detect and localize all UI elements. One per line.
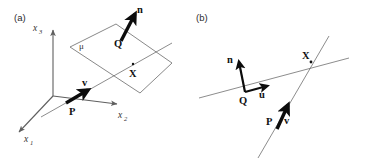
vector-n-a	[121, 14, 135, 41]
panel-b-group: (b) n u Q P v X	[196, 12, 349, 158]
vector-diagram: (a) x 3 x 2 x 1 μ	[0, 0, 367, 162]
ray-line-a	[41, 43, 172, 117]
panel-a-group: (a) x 3 x 2 x 1 μ	[14, 4, 172, 146]
vector-v-a	[66, 90, 88, 103]
point-P-label-b: P	[266, 116, 273, 127]
vector-n-label-b: n	[227, 54, 233, 65]
line-through-P	[258, 36, 329, 158]
vector-u-label-b: u	[259, 89, 265, 100]
point-X-dot-a	[132, 63, 134, 65]
vector-v-label-a: v	[82, 77, 88, 88]
figure-container: (a) x 3 x 2 x 1 μ	[0, 0, 367, 162]
axis-x2-line	[53, 96, 117, 104]
point-X-label-b: X	[302, 50, 310, 61]
axis-x3-subscript: 3	[38, 28, 43, 35]
axis-x1-subscript: 1	[30, 139, 33, 146]
panel-a-label: (a)	[14, 12, 26, 23]
axis-x3-label: x 3	[32, 23, 43, 35]
panel-b-label: (b)	[196, 12, 208, 23]
axis-x1-line	[19, 96, 53, 132]
coordinate-axes	[19, 30, 117, 132]
axis-x2-label: x 2	[117, 110, 128, 122]
point-Q-label-b: Q	[239, 95, 247, 106]
axis-x2-subscript: 2	[124, 115, 128, 122]
axis-x1-base: x	[23, 134, 29, 144]
axis-x1-label: x 1	[23, 134, 33, 146]
vector-n-label-a: n	[137, 4, 143, 15]
line-through-Q	[199, 58, 349, 98]
point-X-dot-b	[310, 61, 313, 64]
axis-x3-base: x	[32, 23, 38, 33]
point-Q-label-a: Q	[114, 38, 122, 49]
vector-v-label-b: v	[284, 115, 290, 126]
point-P-label-a: P	[69, 106, 76, 117]
plane-mu-label: μ	[79, 41, 84, 51]
axis-x2-base: x	[117, 110, 123, 120]
point-X-label-a: X	[129, 68, 137, 79]
